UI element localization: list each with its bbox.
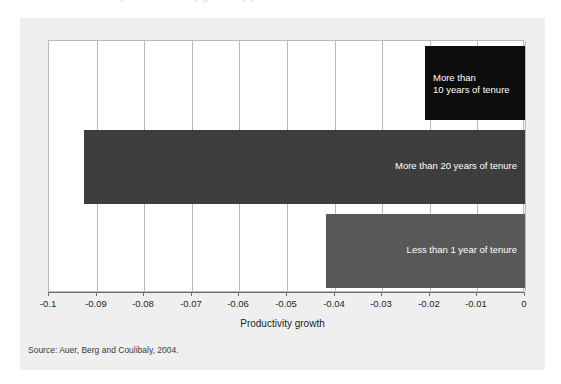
x-axis-tick-label: -0.1: [40, 298, 56, 309]
x-axis-tick: [48, 292, 49, 296]
x-axis-tick-label: -0.08: [132, 298, 154, 309]
gridline: [525, 41, 526, 291]
x-axis-tick: [286, 292, 287, 296]
bar-label: More than 10 years of tenure: [433, 72, 510, 96]
bar[interactable]: Less than 1 year of tenure: [326, 214, 525, 288]
x-axis-tick: [143, 292, 144, 296]
x-axis-tick-label: -0.02: [418, 298, 440, 309]
x-axis-tick: [429, 292, 430, 296]
x-axis-tick-label: -0.01: [465, 298, 487, 309]
x-axis-tick-label: -0.05: [275, 298, 297, 309]
x-axis-tick: [191, 292, 192, 296]
x-axis-tick-label: -0.07: [180, 298, 202, 309]
bar[interactable]: More than 20 years of tenure: [84, 130, 525, 204]
x-axis-tick: [334, 292, 335, 296]
x-axis-tick: [381, 292, 382, 296]
x-axis-tick: [96, 292, 97, 296]
bar[interactable]: More than 10 years of tenure: [425, 46, 525, 120]
cut-off-title-strip: Figure: Productivity growth by job tenur…: [0, 0, 561, 16]
source-note: Source: Auer, Berg and Coulibaly, 2004.: [28, 345, 179, 355]
figure-panel: More than 10 years of tenureMore than 20…: [20, 18, 545, 370]
bar-label: More than 20 years of tenure: [395, 160, 517, 172]
x-axis-tick-label: -0.04: [323, 298, 345, 309]
x-axis-tick-label: -0.06: [227, 298, 249, 309]
x-axis-tick: [238, 292, 239, 296]
plot-area: More than 10 years of tenureMore than 20…: [48, 40, 524, 292]
bar-label: Less than 1 year of tenure: [407, 244, 517, 256]
x-axis-tick-label: -0.03: [370, 298, 392, 309]
x-axis-tick-label: -0.09: [85, 298, 107, 309]
x-axis-tick: [476, 292, 477, 296]
x-axis-tick-label: 0: [521, 298, 526, 309]
x-axis-title: Productivity growth: [20, 318, 545, 329]
x-axis-tick: [524, 292, 525, 296]
ghost-title-text: Figure: Productivity growth by job tenur…: [110, 0, 297, 2]
